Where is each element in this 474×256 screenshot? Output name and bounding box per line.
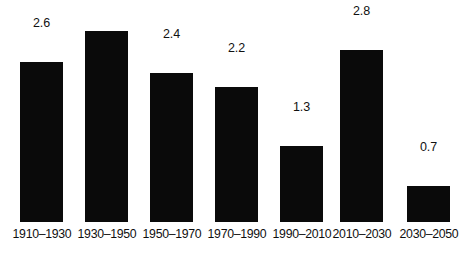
bar-value-label: 2.8: [328, 4, 395, 18]
bar-value-label: 2.2: [203, 41, 270, 55]
bar-rect[interactable]: [340, 50, 383, 222]
bar-rect[interactable]: [280, 146, 323, 222]
category-label: 2030–2050: [394, 226, 464, 242]
bar-value-label: 2.4: [138, 27, 205, 41]
bar-rect[interactable]: [215, 87, 258, 222]
bar-chart: 2.6 1910–1930 3.1 1930–1950 2.4 1950–197…: [0, 0, 474, 256]
bar-value-label: 0.7: [395, 140, 462, 154]
bar-rect[interactable]: [85, 31, 128, 222]
plot-area: 2.6 1910–1930 3.1 1930–1950 2.4 1950–197…: [0, 0, 474, 256]
category-label: 1970–1990: [202, 226, 272, 242]
bar-value-label: 1.3: [268, 100, 335, 114]
bar-rect[interactable]: [407, 186, 450, 222]
bar-value-label: 2.6: [8, 16, 75, 30]
bar-rect[interactable]: [20, 62, 63, 222]
category-label: 1910–1930: [7, 226, 77, 242]
category-label: 1930–1950: [72, 226, 142, 242]
category-label: 1950–1970: [137, 226, 207, 242]
bar-rect[interactable]: [150, 73, 193, 222]
category-label: 2010–2030: [327, 226, 397, 242]
